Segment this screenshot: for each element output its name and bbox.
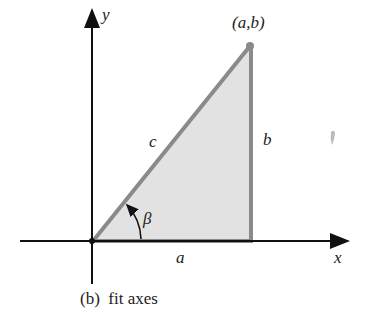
- vertex-label: (a,b): [232, 13, 265, 32]
- angle-label: β: [142, 209, 152, 228]
- side-c-label: c: [149, 132, 157, 151]
- side-b-label: b: [263, 130, 272, 149]
- x-axis-label: x: [333, 248, 342, 267]
- origin-point: [89, 238, 95, 244]
- side-a-label: a: [176, 248, 185, 267]
- caption: (b) fit axes: [80, 289, 158, 308]
- y-axis-label: y: [100, 5, 110, 24]
- vertex-point: [246, 42, 254, 50]
- triangle-diagram: y x (a,b) c b a β (b) fit axes: [0, 0, 372, 325]
- stray-mark: [331, 131, 335, 145]
